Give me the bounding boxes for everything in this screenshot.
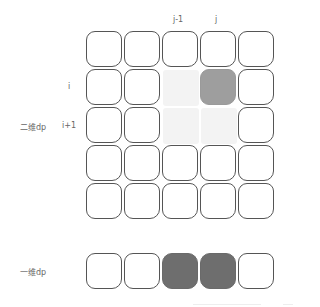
dp2d-label: 二维dp bbox=[20, 121, 46, 132]
grid-cell-i-j bbox=[200, 69, 236, 105]
grid-cell bbox=[124, 31, 160, 67]
grid-cell bbox=[238, 107, 274, 143]
grid-cell bbox=[162, 31, 198, 67]
row-label-i-plus-1: i+1 bbox=[62, 121, 76, 130]
grid-cell bbox=[124, 145, 160, 181]
grid-cell bbox=[200, 31, 236, 67]
faint-divider bbox=[283, 304, 293, 305]
grid-cell bbox=[238, 69, 274, 105]
dp1d-cell bbox=[124, 253, 160, 289]
grid-cell bbox=[200, 145, 236, 181]
grid-cell-i-jminus1 bbox=[163, 70, 199, 106]
grid-cell-iplus1-jminus1 bbox=[163, 108, 199, 144]
grid-cell bbox=[124, 107, 160, 143]
grid-cell bbox=[162, 183, 198, 219]
grid-cell bbox=[238, 31, 274, 67]
grid-cell bbox=[86, 183, 122, 219]
grid-cell bbox=[200, 183, 236, 219]
grid-cell bbox=[86, 69, 122, 105]
col-label-j: j bbox=[215, 15, 217, 24]
dp1d-cell-j bbox=[200, 253, 236, 289]
grid-cell bbox=[124, 69, 160, 105]
grid-cell bbox=[124, 183, 160, 219]
grid-cell bbox=[86, 31, 122, 67]
grid-cell bbox=[162, 145, 198, 181]
grid-cell bbox=[238, 145, 274, 181]
dp1d-cell-jminus1 bbox=[162, 253, 198, 289]
dp1d-cell bbox=[238, 253, 274, 289]
grid-cell bbox=[86, 107, 122, 143]
dp1d-cell bbox=[86, 253, 122, 289]
faint-divider bbox=[193, 304, 261, 305]
grid-cell bbox=[238, 183, 274, 219]
row-label-i: i bbox=[68, 82, 70, 91]
grid-cell-iplus1-j bbox=[201, 108, 237, 144]
col-label-j-minus-1: j-1 bbox=[173, 15, 183, 24]
dp1d-label: 一维dp bbox=[20, 266, 46, 277]
grid-cell bbox=[86, 145, 122, 181]
